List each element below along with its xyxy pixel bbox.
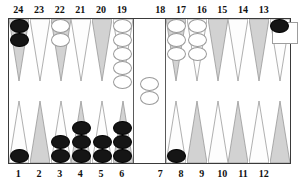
black-checker[interactable]: [93, 135, 112, 149]
white-checker[interactable]: [51, 19, 70, 33]
bottom-left-label-group: 123456: [8, 166, 132, 182]
point-label-14: 14: [233, 4, 254, 16]
point-label-11: 11: [233, 168, 254, 180]
white-checker[interactable]: [113, 47, 132, 61]
point-label-9: 9: [191, 168, 212, 180]
point-column: [30, 19, 51, 163]
point-label-1: 1: [8, 168, 29, 180]
white-checker[interactable]: [113, 19, 132, 33]
point-label-7: 7: [150, 168, 171, 180]
checker-stack-point-18[interactable]: [166, 19, 187, 61]
black-checker[interactable]: [10, 19, 29, 33]
point-label-22: 22: [49, 4, 70, 16]
white-checker[interactable]: [113, 61, 132, 75]
point-triangle: [208, 101, 228, 163]
point-9[interactable]: [207, 19, 228, 163]
checker-stack-point-24[interactable]: [9, 19, 30, 47]
white-checker[interactable]: [188, 19, 207, 33]
white-checker[interactable]: [167, 19, 186, 33]
point-label-24: 24: [8, 4, 29, 16]
board-field: [8, 18, 291, 164]
point-label-2: 2: [29, 168, 50, 180]
point-label-3: 3: [49, 168, 70, 180]
top-point-labels: 242322212019 181716151413: [0, 2, 299, 18]
point-label-5: 5: [91, 168, 112, 180]
point-label-17: 17: [171, 4, 192, 16]
bar[interactable]: [133, 19, 166, 163]
point-label-19: 19: [111, 4, 132, 16]
checker-stack-point-19[interactable]: [112, 19, 133, 89]
point-4[interactable]: [71, 19, 92, 163]
white-checker-on-bar[interactable]: [140, 77, 159, 91]
point-column: [92, 19, 113, 163]
point-column: [228, 19, 249, 163]
point-column: [249, 19, 270, 163]
white-checker[interactable]: [113, 75, 132, 89]
black-checker[interactable]: [93, 149, 112, 163]
white-checker[interactable]: [167, 33, 186, 47]
white-checker-on-bar[interactable]: [140, 91, 159, 105]
black-checker[interactable]: [72, 135, 91, 149]
black-checker[interactable]: [72, 121, 91, 135]
checker-stack-point-22[interactable]: [50, 19, 71, 47]
point-10[interactable]: [228, 19, 249, 163]
black-checker[interactable]: [51, 149, 70, 163]
checker-stack-point-1[interactable]: [9, 149, 30, 163]
bottom-right-label-group: 789101112: [150, 166, 274, 182]
top-left-label-group: 242322212019: [8, 2, 132, 18]
white-checker[interactable]: [188, 33, 207, 47]
point-label-4: 4: [70, 168, 91, 180]
checker-stack-point-7[interactable]: [166, 149, 187, 163]
point-label-21: 21: [70, 4, 91, 16]
point-5[interactable]: [92, 19, 113, 163]
left-half: [9, 19, 133, 163]
point-triangle: [228, 101, 248, 163]
point-column: [166, 19, 187, 163]
point-label-6: 6: [111, 168, 132, 180]
black-checker[interactable]: [113, 121, 132, 135]
point-label-8: 8: [171, 168, 192, 180]
black-checker[interactable]: [72, 149, 91, 163]
backgammon-board: 242322212019 181716151413 123456 7891011…: [0, 0, 299, 183]
bottom-point-labels: 123456 789101112: [0, 166, 299, 182]
black-checker[interactable]: [113, 149, 132, 163]
checker-stack-point-4[interactable]: [71, 121, 92, 163]
point-2[interactable]: [30, 19, 51, 163]
black-checker[interactable]: [10, 33, 29, 47]
checker-stack-point-17[interactable]: [187, 19, 208, 61]
black-checker[interactable]: [10, 149, 29, 163]
point-label-18: 18: [150, 4, 171, 16]
point-column: [9, 19, 30, 163]
point-triangle: [187, 101, 207, 163]
checker-stack-point-13[interactable]: [269, 19, 290, 33]
point-label-12: 12: [253, 168, 274, 180]
point-label-13: 13: [253, 4, 274, 16]
point-triangle: [270, 101, 290, 163]
white-checker[interactable]: [51, 33, 70, 47]
point-label-15: 15: [212, 4, 233, 16]
white-checker[interactable]: [113, 33, 132, 47]
point-triangle: [249, 101, 269, 163]
point-column: [187, 19, 208, 163]
point-11[interactable]: [249, 19, 270, 163]
point-column: [50, 19, 71, 163]
point-label-10: 10: [212, 168, 233, 180]
point-column: [71, 19, 92, 163]
point-label-16: 16: [191, 4, 212, 16]
black-checker[interactable]: [113, 135, 132, 149]
checker-stack-point-3[interactable]: [50, 135, 71, 163]
bar-checker-stack[interactable]: [134, 77, 165, 105]
black-checker[interactable]: [51, 135, 70, 149]
black-checker[interactable]: [270, 19, 289, 33]
white-checker[interactable]: [188, 47, 207, 61]
top-right-label-group: 181716151413: [150, 2, 274, 18]
white-checker[interactable]: [167, 47, 186, 61]
point-label-23: 23: [29, 4, 50, 16]
point-column: [112, 19, 133, 163]
checker-stack-point-6[interactable]: [112, 121, 133, 163]
black-checker[interactable]: [167, 149, 186, 163]
point-triangle: [30, 101, 50, 163]
checker-stack-point-5[interactable]: [92, 135, 113, 163]
point-label-20: 20: [91, 4, 112, 16]
point-column: [207, 19, 228, 163]
